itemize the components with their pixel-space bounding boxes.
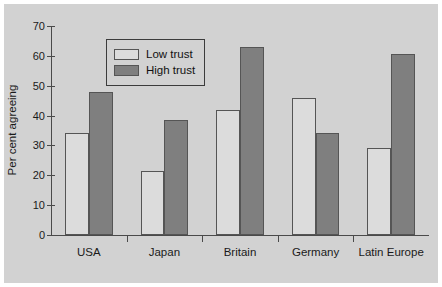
chart-legend: Low trust High trust <box>106 39 205 86</box>
y-axis-tick-mark <box>47 175 55 176</box>
y-axis-tick: 70 <box>51 26 52 27</box>
legend-item-low-trust: Low trust <box>114 47 195 62</box>
y-axis-tick: 60 <box>51 56 52 57</box>
y-axis-tick-label: 70 <box>33 21 45 32</box>
x-axis-label-britain: Britain <box>224 247 257 259</box>
y-axis-title: Per cent agreeing <box>6 85 18 176</box>
y-axis-tick-label: 40 <box>33 110 45 121</box>
x-axis-tick-mark <box>127 235 128 242</box>
y-axis-tick: 0 <box>51 235 52 236</box>
y-axis-tick: 30 <box>51 145 52 146</box>
bar-britain-low-trust <box>216 110 240 235</box>
y-axis-tick-mark <box>47 145 55 146</box>
bar-latin-europe-low-trust <box>367 148 391 235</box>
y-axis-tick-label: 0 <box>39 230 45 241</box>
y-axis-tick-label: 50 <box>33 80 45 91</box>
bar-latin-europe-high-trust <box>391 54 415 235</box>
x-axis-label-germany: Germany <box>292 247 339 259</box>
legend-label-low-trust: Low trust <box>146 49 193 61</box>
y-axis-tick-mark <box>47 26 55 27</box>
x-axis-tick-mark <box>353 235 354 242</box>
x-axis-tick-mark <box>202 235 203 242</box>
y-axis-tick-mark <box>47 235 55 236</box>
y-axis-tick-mark <box>47 86 55 87</box>
legend-swatch-high-trust <box>114 65 139 76</box>
bar-germany-low-trust <box>292 98 316 235</box>
y-axis-tick-label: 20 <box>33 170 45 181</box>
legend-label-high-trust: High trust <box>146 65 195 77</box>
bar-japan-low-trust <box>141 171 165 235</box>
y-axis-tick-label: 60 <box>33 50 45 61</box>
x-axis-label-latin-europe: Latin Europe <box>359 247 424 259</box>
y-axis-tick: 40 <box>51 116 52 117</box>
y-axis-tick-label: 10 <box>33 200 45 211</box>
y-axis-tick: 20 <box>51 175 52 176</box>
legend-swatch-low-trust <box>114 49 139 60</box>
x-axis-label-japan: Japan <box>149 247 180 259</box>
y-axis-tick: 10 <box>51 205 52 206</box>
x-axis-tick-mark <box>278 235 279 242</box>
y-axis-tick-mark <box>47 116 55 117</box>
bar-germany-high-trust <box>316 133 340 235</box>
bar-japan-high-trust <box>164 120 188 235</box>
y-axis-tick: 50 <box>51 86 52 87</box>
bar-britain-high-trust <box>240 47 264 235</box>
y-axis-tick-mark <box>47 56 55 57</box>
x-axis-label-usa: USA <box>77 247 101 259</box>
legend-item-high-trust: High trust <box>114 63 195 78</box>
bar-usa-high-trust <box>89 92 113 235</box>
y-axis-tick-label: 30 <box>33 140 45 151</box>
chart-figure: Per cent agreeing 010203040506070 USAJap… <box>0 0 442 287</box>
bar-usa-low-trust <box>65 133 89 235</box>
x-axis-line <box>51 235 429 236</box>
y-axis-tick-mark <box>47 205 55 206</box>
